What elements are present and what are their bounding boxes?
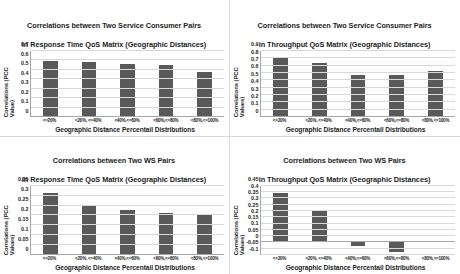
y-tick-label: 0.6 <box>21 52 29 57</box>
chart-panel-top-left: Correlations between Two Service Consume… <box>0 0 230 137</box>
x-tick-label: <40%,<=60% <box>338 256 377 262</box>
y-tick-label: 0.2 <box>21 207 29 212</box>
grid-line <box>261 72 455 73</box>
axis-zero-line <box>31 254 224 255</box>
y-tick-label: 0.9 <box>251 43 259 48</box>
bar-slot <box>377 186 416 255</box>
y-tick-label: 0.4 <box>251 79 259 84</box>
x-tick-label: <=20% <box>30 118 69 124</box>
bar <box>120 64 135 117</box>
grid-line <box>261 248 455 249</box>
y-tick-label: -0.05 <box>246 241 258 246</box>
bar <box>120 210 135 255</box>
y-axis-label: Correlations (PCC Values) <box>234 51 243 117</box>
y-tick-label: -0.1 <box>249 247 258 252</box>
y-tick-label: 0.25 <box>18 197 29 202</box>
grid-line <box>261 210 455 211</box>
y-tick-label: 0.5 <box>21 62 29 67</box>
grid-line <box>31 234 224 235</box>
grid-line <box>31 195 224 196</box>
plot-wrap: Correlations (PCC Values) -0.1-0.0500.05… <box>234 186 455 255</box>
grid-line <box>261 235 455 236</box>
y-tick-label: 0.05 <box>248 228 259 233</box>
bar <box>351 75 366 117</box>
chart-title-line1: Correlations between Two Service Consume… <box>27 21 201 30</box>
x-tick-label: <=20% <box>30 256 69 262</box>
y-tick-label: 0.3 <box>21 81 29 86</box>
grid-line <box>261 191 455 192</box>
bar-slot <box>339 51 378 117</box>
x-tick-label: <20%, <=40% <box>69 256 108 262</box>
chart-title-line1: Correlations between Two WS Pairs <box>53 156 175 165</box>
x-tick-label: <80%,<=100% <box>416 256 455 262</box>
chart-title-line1: Correlations between Two Service Consume… <box>258 21 432 30</box>
y-tick-label: 0.4 <box>251 184 259 189</box>
bar <box>82 62 97 117</box>
bar-slot <box>416 51 455 117</box>
y-tick-label: 0.15 <box>248 215 259 220</box>
bar-slot <box>377 51 416 117</box>
y-tick-label: 0.35 <box>248 190 259 195</box>
x-tick-label: <80%,<=100% <box>185 118 224 124</box>
y-tick-label: 0.1 <box>21 99 29 104</box>
chart-panel-top-right: Correlations between Two Service Consume… <box>230 0 460 137</box>
y-axis-label: Correlations (PCC Values) <box>234 186 243 255</box>
y-tick-label: 0.2 <box>251 209 259 214</box>
grid-line <box>31 244 224 245</box>
y-tick-label: 0.45 <box>248 178 259 183</box>
plot-area <box>30 186 224 255</box>
x-tick-label: <40%,<=60% <box>338 118 377 124</box>
bar-slot <box>416 186 455 255</box>
grid-line <box>31 107 224 108</box>
bar-slot <box>300 186 339 255</box>
grid-line <box>261 185 455 186</box>
grid-line <box>261 79 455 80</box>
y-tick-label: 0.15 <box>18 217 29 222</box>
y-tick-label: 0.3 <box>251 197 259 202</box>
x-tick-label: <20%, <=40% <box>69 118 108 124</box>
x-tick-label: <=20% <box>260 118 299 124</box>
y-axis-ticks: 00.050.10.150.20.250.30.35 <box>13 186 30 255</box>
y-tick-label: 0.5 <box>251 72 259 77</box>
y-tick-label: 0.1 <box>251 102 259 107</box>
x-axis-ticks: <=20%<20%, <=40%<40%,<=60%<60%,<=80%<80%… <box>260 118 455 124</box>
y-tick-label: 0.8 <box>251 50 259 55</box>
chart-title-line2: in Response Time QoS Matrix (Geographic … <box>22 175 206 184</box>
x-axis-ticks: <=20%<20%, <=40%<40%,<=60%<60%,<=80%<80%… <box>30 256 224 262</box>
y-axis-ticks: -0.1-0.0500.050.10.150.20.250.30.350.40.… <box>243 186 260 255</box>
bar-slot <box>261 186 300 255</box>
chart-panel-bottom-left: Correlations between Two WS Pairs in Res… <box>0 137 230 274</box>
grid-line <box>31 224 224 225</box>
y-tick-label: 0.7 <box>21 43 29 48</box>
y-tick-label: 0.3 <box>21 188 29 193</box>
x-axis-label: Geographic Distance Percentail Distribut… <box>256 264 455 271</box>
plot-area <box>30 51 224 117</box>
x-tick-label: <60%,<=80% <box>377 118 416 124</box>
x-tick-label: <80%,<=100% <box>185 256 224 262</box>
plot-area <box>260 51 455 117</box>
x-axis-ticks: <=20%<20%, <=40%<40%,<=60%<60%,<=80%<80%… <box>30 118 224 124</box>
y-tick-label: 0.05 <box>18 237 29 242</box>
x-axis-label: Geographic Distance Percentail Distribut… <box>26 264 224 271</box>
y-axis-ticks: 00.10.20.30.40.50.60.7 <box>13 51 30 117</box>
axis-zero-line <box>261 241 455 242</box>
grid-line <box>261 57 455 58</box>
grid-line <box>261 101 455 102</box>
grid-line <box>31 50 224 51</box>
figure-grid: Correlations between Two Service Consume… <box>0 0 460 274</box>
axis-zero-line <box>261 116 455 117</box>
chart-title-line2: in Response Time QoS Matrix (Geographic … <box>22 40 206 49</box>
bar-series <box>261 51 455 117</box>
chart-title-line1: Correlations between Two WS Pairs <box>283 156 405 165</box>
x-tick-label: <60%,<=80% <box>377 256 416 262</box>
y-tick-label: 0.4 <box>21 71 29 76</box>
chart-title: Correlations between Two WS Pairs in Thr… <box>236 147 453 184</box>
grid-line <box>31 59 224 60</box>
grid-line <box>31 185 224 186</box>
grid-line <box>31 214 224 215</box>
chart-panel-bottom-right: Correlations between Two WS Pairs in Thr… <box>230 137 460 274</box>
grid-line <box>261 94 455 95</box>
y-axis-ticks: 00.10.20.30.40.50.60.70.80.9 <box>243 51 260 117</box>
x-axis-ticks: <=20%<20%, <=40%<40%,<=60%<60%,<=80%<80%… <box>260 256 455 262</box>
x-tick-label: <20%, <=40% <box>299 256 338 262</box>
